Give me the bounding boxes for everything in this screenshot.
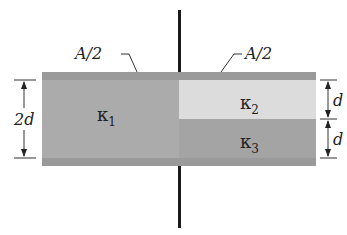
annotation-lines (0, 0, 347, 235)
